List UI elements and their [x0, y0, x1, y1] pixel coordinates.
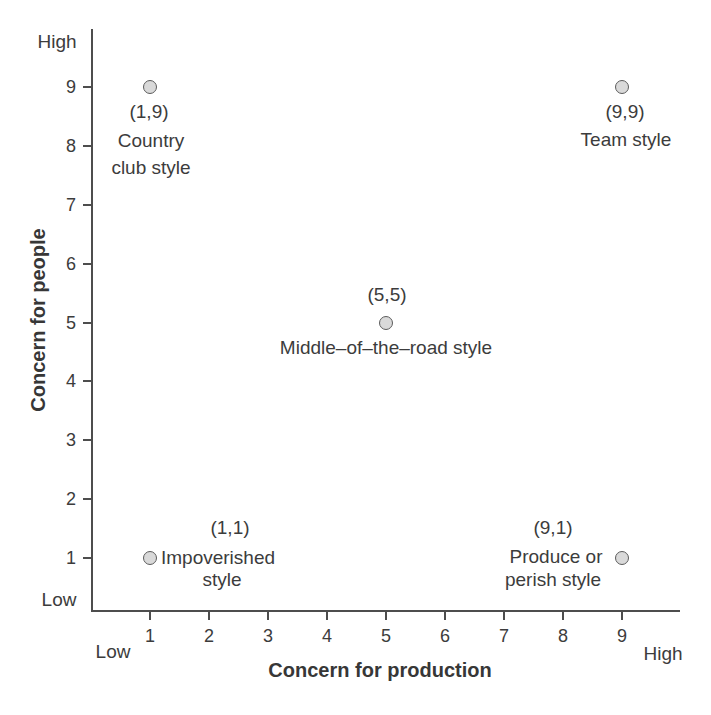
point-coord-label-middle-of-the-road-style: (5,5): [367, 284, 406, 306]
y-axis-low-label: Low: [42, 589, 77, 611]
y-axis-tick-label: 8: [66, 135, 76, 156]
point-team-style: [615, 80, 629, 94]
x-axis-tick-label: 1: [145, 626, 155, 647]
x-axis-tick: [208, 611, 210, 620]
y-axis-tick-label: 1: [66, 548, 76, 569]
x-axis-tick-label: 7: [499, 626, 509, 647]
point-name-label-produce-or-perish-style: perish style: [505, 569, 601, 591]
x-axis-title: Concern for production: [268, 659, 491, 682]
point-name-label-produce-or-perish-style: Produce or: [510, 546, 603, 568]
y-axis-tick-label: 3: [66, 430, 76, 451]
point-name-label-country-club-style: Country: [118, 130, 185, 152]
x-axis-tick: [385, 611, 387, 620]
y-axis-title: Concern for people: [27, 228, 50, 411]
point-name-label-middle-of-the-road-style: Middle–of–the–road style: [280, 337, 492, 359]
y-axis-tick-label: 4: [66, 371, 76, 392]
point-produce-or-perish-style: [615, 551, 629, 565]
point-country-club-style: [143, 80, 157, 94]
point-coord-label-team-style: (9,9): [605, 101, 644, 123]
x-axis-tick: [562, 611, 564, 620]
y-axis-tick-label: 5: [66, 312, 76, 333]
x-axis-high-label: High: [643, 643, 682, 665]
y-axis-tick: [83, 439, 92, 441]
x-axis-tick: [621, 611, 623, 620]
managerial-grid-chart: High Low Low High Concern for production…: [0, 0, 711, 715]
y-axis-tick-label: 9: [66, 77, 76, 98]
y-axis-tick-label: 2: [66, 489, 76, 510]
x-axis-tick-label: 6: [440, 626, 450, 647]
y-axis-tick-label: 6: [66, 253, 76, 274]
point-name-label-team-style: Team style: [581, 129, 672, 151]
y-axis-line: [91, 29, 93, 612]
point-coord-label-country-club-style: (1,9): [129, 101, 168, 123]
point-impoverished-style: [143, 551, 157, 565]
point-middle-of-the-road-style: [379, 316, 393, 330]
x-axis-tick: [326, 611, 328, 620]
x-axis-tick-label: 2: [204, 626, 214, 647]
point-coord-label-produce-or-perish-style: (9,1): [533, 517, 572, 539]
point-name-label-impoverished-style: Impoverished: [161, 547, 275, 569]
x-axis-tick: [267, 611, 269, 620]
x-axis-tick-label: 5: [381, 626, 391, 647]
x-axis-tick-label: 9: [617, 626, 627, 647]
y-axis-tick-label: 7: [66, 194, 76, 215]
point-coord-label-impoverished-style: (1,1): [210, 517, 249, 539]
y-axis-tick: [83, 380, 92, 382]
y-axis-tick: [83, 86, 92, 88]
y-axis-tick: [83, 263, 92, 265]
x-axis-tick: [149, 611, 151, 620]
y-axis-tick: [83, 498, 92, 500]
x-axis-tick: [444, 611, 446, 620]
x-axis-low-label: Low: [96, 641, 131, 663]
x-axis-tick-label: 3: [263, 626, 273, 647]
x-axis-tick: [503, 611, 505, 620]
y-axis-tick: [83, 322, 92, 324]
y-axis-high-label: High: [37, 31, 76, 53]
y-axis-tick: [83, 145, 92, 147]
y-axis-tick: [83, 557, 92, 559]
x-axis-tick-label: 8: [558, 626, 568, 647]
point-name-label-country-club-style: club style: [111, 157, 190, 179]
point-name-label-impoverished-style: style: [202, 569, 241, 591]
x-axis-tick-label: 4: [322, 626, 332, 647]
y-axis-tick: [83, 204, 92, 206]
